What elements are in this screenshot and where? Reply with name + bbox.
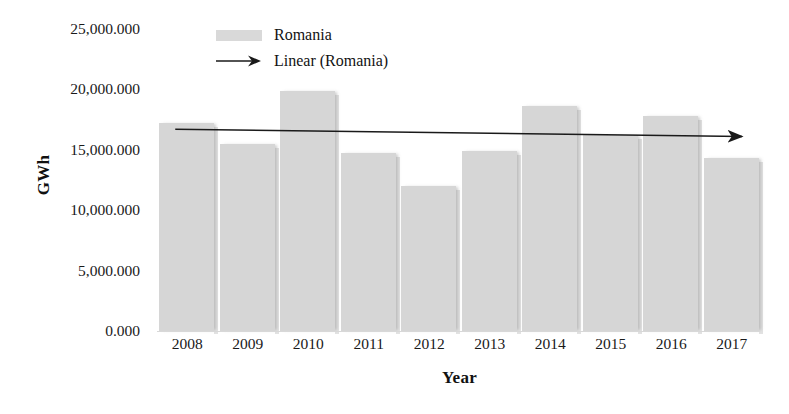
legend-item-linear-romania[interactable]: Linear (Romania): [216, 48, 388, 74]
x-tick-label-2013: 2013: [460, 336, 521, 352]
bar-2012[interactable]: [401, 186, 456, 331]
bar-2011[interactable]: [341, 153, 396, 331]
x-tick-label-2014: 2014: [520, 336, 581, 352]
bar-2017[interactable]: [704, 158, 759, 331]
x-tick-label-2012: 2012: [399, 336, 460, 352]
y-tick-label: 20,000.000: [22, 81, 140, 97]
x-tick-label-2008: 2008: [157, 336, 218, 352]
legend-label-linear-romania: Linear (Romania): [274, 52, 388, 70]
bar-2014[interactable]: [522, 106, 577, 331]
x-tick-label-2010: 2010: [278, 336, 339, 352]
x-tick-label-2009: 2009: [218, 336, 279, 352]
x-axis-tick-labels: 2008200920102011201220132014201520162017: [157, 336, 762, 362]
y-tick-label: 0.000: [22, 323, 140, 339]
y-tick-label: 5,000.000: [22, 263, 140, 279]
y-tick-label: 10,000.000: [22, 202, 140, 218]
x-tick-label-2016: 2016: [641, 336, 702, 352]
bar-2008[interactable]: [159, 123, 214, 331]
y-tick-label: 25,000.000: [22, 21, 140, 37]
legend-label-romania: Romania: [274, 26, 332, 44]
legend-item-romania[interactable]: Romania: [216, 22, 388, 48]
x-tick-label-2011: 2011: [339, 336, 400, 352]
legend-arrow-icon: [216, 54, 262, 68]
x-axis-title: Year: [157, 368, 762, 388]
x-tick-label-2015: 2015: [581, 336, 642, 352]
bar-2016[interactable]: [643, 116, 698, 331]
legend-swatch-icon: [216, 30, 262, 41]
y-tick-label: 15,000.000: [22, 142, 140, 158]
x-tick-label-2017: 2017: [702, 336, 763, 352]
bar-2010[interactable]: [280, 91, 335, 331]
chart-legend: Romania Linear (Romania): [216, 22, 388, 74]
bar-2015[interactable]: [583, 135, 638, 331]
bar-2009[interactable]: [220, 144, 275, 331]
bar-chart-romania-gwh: GWh 0.0005,000.00010,000.00015,000.00020…: [0, 0, 789, 414]
x-axis-baseline: [157, 331, 760, 332]
bar-2013[interactable]: [462, 151, 517, 331]
y-axis-tick-labels: 0.0005,000.00010,000.00015,000.00020,000…: [22, 0, 140, 414]
